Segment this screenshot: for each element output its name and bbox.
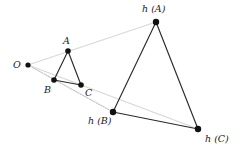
- triangle-edges-group: [54, 22, 198, 129]
- point-label-hC: h (C): [205, 134, 229, 144]
- ray-O-hB: [28, 65, 113, 112]
- edge-hA-hB: [113, 22, 156, 112]
- vertex-point-O: [25, 62, 30, 67]
- edge-hB-hC: [113, 112, 198, 129]
- edge-hA-hC: [156, 22, 198, 129]
- point-label-O: O: [13, 60, 21, 70]
- homothety-figure: OABCh (A)h (B)h (C): [0, 0, 243, 155]
- point-label-hA: h (A): [142, 4, 165, 14]
- point-label-C: C: [85, 88, 92, 98]
- edge-A-C: [68, 51, 81, 85]
- ray-O-hA: [28, 22, 156, 65]
- point-label-B: B: [44, 85, 51, 95]
- vertex-point-A: [65, 48, 71, 54]
- ray-O-hC: [28, 65, 198, 129]
- point-label-A: A: [63, 36, 70, 46]
- edge-B-C: [54, 80, 81, 85]
- figure-canvas: [0, 0, 243, 155]
- vertex-point-hA: [153, 19, 159, 25]
- point-label-hB: h (B): [88, 116, 112, 126]
- vertex-point-C: [78, 82, 84, 88]
- vertex-point-hC: [195, 126, 201, 132]
- vertex-point-B: [51, 77, 57, 83]
